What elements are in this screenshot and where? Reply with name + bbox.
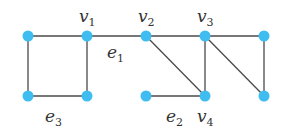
node-c <box>82 91 93 102</box>
nodes-layer <box>23 31 270 102</box>
node-d <box>141 91 152 102</box>
edge-v3-e <box>205 36 264 96</box>
node-v1 <box>82 31 93 42</box>
node-label-v1: v1 <box>79 6 96 29</box>
edges-layer <box>28 36 264 96</box>
edge-label-e3: e3 <box>45 106 62 129</box>
node-v2 <box>141 31 152 42</box>
node-v4 <box>200 91 211 102</box>
node-r <box>259 31 270 42</box>
node-v3 <box>200 31 211 42</box>
node-b <box>23 91 34 102</box>
node-a <box>23 31 34 42</box>
labels-layer: e3e1e2v1v2v3v4 <box>45 6 214 129</box>
edge-label-e1: e1 <box>107 42 124 65</box>
edge-label-e2: e2 <box>166 106 183 129</box>
node-label-v3: v3 <box>197 6 214 29</box>
node-e <box>259 91 270 102</box>
graph-diagram: e3e1e2v1v2v3v4 <box>0 0 288 131</box>
node-label-v2: v2 <box>138 6 155 29</box>
edge-v2-v4 <box>146 36 205 96</box>
node-label-v4: v4 <box>197 106 214 129</box>
